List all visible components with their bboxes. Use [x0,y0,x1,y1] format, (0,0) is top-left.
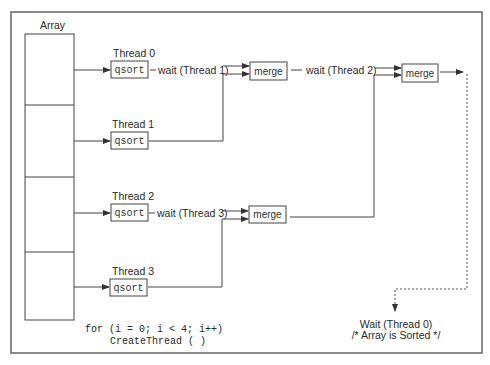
thread-2-label: Thread 2 [112,190,154,202]
thread-0: Thread 0 qsort wait (Thread 1) [74,47,249,78]
thread-1-to-merge-connector [149,74,249,141]
loop-code-line-2: CreateThread ( ) [110,336,206,347]
final-sorted-comment: /* Array is Sorted */ [352,329,441,341]
merge-2-text: merge [253,209,282,220]
array-label: Array [40,19,66,31]
outer-frame [11,12,482,353]
thread-0-wait-label: wait (Thread 1) [157,64,229,76]
thread-2-qsort-text: qsort [114,208,144,219]
thread-3-to-merge-connector [148,219,248,287]
thread-1-label: Thread 1 [112,118,154,130]
thread-3-label: Thread 3 [112,265,154,277]
merge-2: merge [249,75,401,223]
thread-1: Thread 1 qsort [74,74,249,149]
thread-3-qsort-text: qsort [113,283,143,294]
merge-2-to-final-merge-connector [290,75,401,217]
merge-final-text: merge [406,68,435,79]
thread-2-wait-label: wait (Thread 3) [156,207,228,219]
merge-1-text: merge [254,66,283,77]
array-block [25,34,74,320]
thread-0-qsort-text: qsort [114,65,144,76]
merge-final: merge [402,64,463,82]
thread-3: Thread 3 qsort [74,219,248,296]
loop-code-line-1: for (i = 0; i < 4; i++) [85,324,223,335]
thread-0-label: Thread 0 [113,47,155,59]
thread-2: Thread 2 qsort wait (Thread 3) [74,190,248,221]
merge-1-wait-label: wait (Thread 2) [305,64,377,76]
parallel-sort-diagram: Array Thread 0 qsort wait (Thread 1) Thr… [0,0,490,365]
merge-1: merge wait (Thread 2) [250,62,401,80]
thread-1-qsort-text: qsort [114,136,144,147]
final-wait-dashed-connector [395,74,467,311]
